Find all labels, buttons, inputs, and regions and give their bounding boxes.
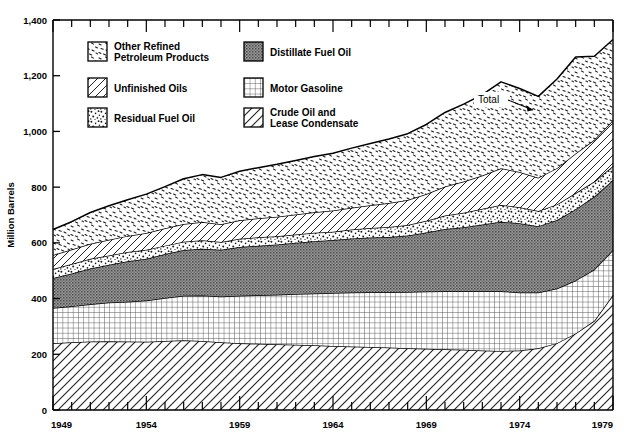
y-axis-title: Million Barrels xyxy=(5,182,16,247)
legend-swatch-distillate-fuel-oil xyxy=(244,42,263,61)
chart-legend: Other RefinedPetroleum ProductsUnfinishe… xyxy=(80,32,390,132)
legend-label-motor-gasoline: Motor Gasoline xyxy=(270,83,343,94)
x-tick-label: 1969 xyxy=(416,419,437,430)
y-tick-label: 1,200 xyxy=(23,70,47,81)
x-tick-label: 1959 xyxy=(229,419,250,430)
legend-label-crude-oil-and-lease-condensate-line2: Lease Condensate xyxy=(270,118,359,129)
y-tick-label: 800 xyxy=(31,182,47,193)
chart-figure: 02004006008001,0001,2001,400194919541959… xyxy=(0,0,631,441)
y-tick-label: 1,400 xyxy=(23,15,47,26)
x-tick-label: 1979 xyxy=(592,419,613,430)
y-tick-label: 400 xyxy=(31,293,47,304)
legend-label-residual-fuel-oil: Residual Fuel Oil xyxy=(114,113,195,124)
legend-swatch-residual-fuel-oil xyxy=(88,108,107,127)
y-tick-label: 0 xyxy=(42,405,47,416)
legend-swatch-motor-gasoline xyxy=(244,78,263,97)
legend-swatch-other-refined-petroleum-products xyxy=(88,42,107,61)
legend-label-other-refined-petroleum-products-line2: Petroleum Products xyxy=(114,52,209,63)
x-tick-label: 1964 xyxy=(322,419,344,430)
legend-label-other-refined-petroleum-products: Other Refined xyxy=(114,41,180,52)
y-tick-label: 1,000 xyxy=(23,126,47,137)
y-tick-label: 200 xyxy=(31,349,47,360)
x-tick-label: 1974 xyxy=(509,419,531,430)
x-tick-label: 1954 xyxy=(136,419,158,430)
y-tick-label: 600 xyxy=(31,237,47,248)
total-annotation-label: Total xyxy=(478,94,499,105)
legend-label-distillate-fuel-oil: Distillate Fuel Oil xyxy=(270,47,351,58)
legend-label-crude-oil-and-lease-condensate: Crude Oil and xyxy=(270,107,336,118)
stacked-area-chart: 02004006008001,0001,2001,400194919541959… xyxy=(0,0,631,441)
legend-label-unfinished-oils: Unfinished Oils xyxy=(114,83,188,94)
legend-swatch-unfinished-oils xyxy=(88,78,107,97)
legend-swatch-crude-oil-and-lease-condensate xyxy=(244,108,263,127)
x-tick-label: 1949 xyxy=(51,419,72,430)
